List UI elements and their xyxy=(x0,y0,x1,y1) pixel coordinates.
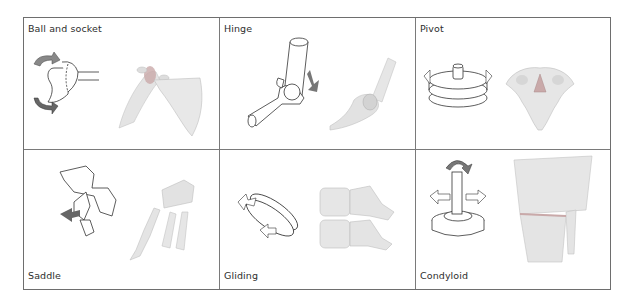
hinge-illustration xyxy=(220,18,415,149)
condyloid-illustration xyxy=(416,150,611,290)
panel-saddle: Saddle xyxy=(24,150,220,290)
gliding-illustration xyxy=(220,150,415,290)
saddle-illustration xyxy=(24,150,220,290)
panel-gliding: Gliding xyxy=(220,150,416,290)
joint-types-grid: Ball and socket Hinge xyxy=(23,17,611,290)
ball-and-socket-illustration xyxy=(24,18,220,149)
panel-hinge: Hinge xyxy=(220,18,416,149)
pivot-illustration xyxy=(416,18,611,149)
panel-ball-and-socket: Ball and socket xyxy=(24,18,220,149)
panel-pivot: Pivot xyxy=(416,18,612,149)
panel-condyloid: Condyloid xyxy=(416,150,612,290)
